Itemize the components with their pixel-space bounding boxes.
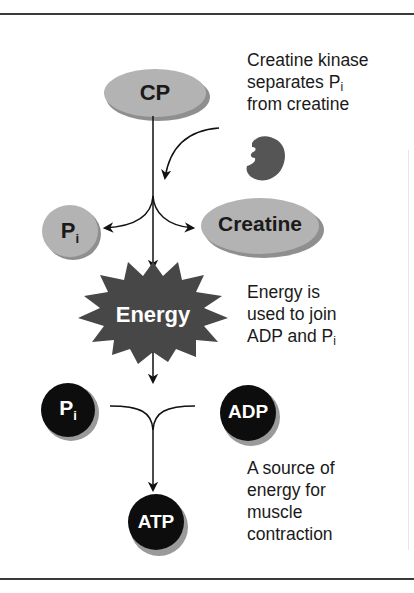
annotation-line: contraction <box>247 523 335 545</box>
adp-label: ADP <box>218 401 278 423</box>
pi-base: P <box>59 396 73 419</box>
energy-label: Energy <box>100 302 206 328</box>
annotation-text: separates P <box>247 72 340 92</box>
annotation-sub: i <box>333 334 336 348</box>
annotation-line: separates Pi <box>247 71 369 93</box>
adp-join-line <box>153 406 195 430</box>
enzyme-arrow <box>165 128 219 178</box>
annotation-line: energy for <box>247 479 335 501</box>
annotation-sub: i <box>340 80 343 94</box>
enzyme-annotation: Creatine kinase separates Pi from creati… <box>247 49 369 115</box>
enzyme-shape <box>247 136 285 180</box>
energy-annotation: Energy is used to join ADP and Pi <box>247 281 337 347</box>
annotation-line: Creatine kinase <box>247 49 369 71</box>
annotation-line: Energy is <box>247 281 337 303</box>
atp-annotation: A source of energy for muscle contractio… <box>247 457 335 545</box>
annotation-line: ADP and Pi <box>247 325 337 347</box>
to-creatine-arrow <box>153 196 193 228</box>
pi-sub: i <box>73 408 77 423</box>
atp-label: ATP <box>126 511 186 533</box>
annotation-text: ADP and P <box>247 326 333 346</box>
pi-base: P <box>61 218 76 243</box>
annotation-line: from creatine <box>247 93 369 115</box>
to-pi-arrow <box>105 196 153 228</box>
creatine-label: Creatine <box>200 212 320 236</box>
pi-sub: i <box>76 231 80 246</box>
cp-label: CP <box>120 80 190 106</box>
annotation-line: A source of <box>247 457 335 479</box>
annotation-line: used to join <box>247 303 337 325</box>
pi-top-label: Pi <box>48 218 92 244</box>
pi-bottom-label: Pi <box>46 396 90 420</box>
annotation-line: muscle <box>247 501 335 523</box>
pi-join-line <box>110 406 153 430</box>
